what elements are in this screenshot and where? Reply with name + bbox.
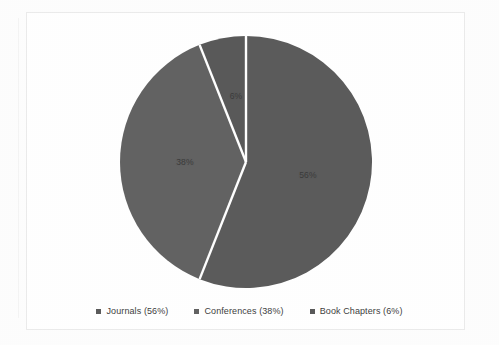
pie-chart-plot-area: 56% 38% 6%	[0, 0, 499, 300]
legend-item-label: Book Chapters (6%)	[320, 306, 403, 316]
legend-item-book-chapters[interactable]: Book Chapters (6%)	[310, 306, 403, 316]
slice-label-book-chapters: 6%	[230, 91, 243, 101]
chart-legend: Journals (56%) Conferences (38%) Book Ch…	[0, 306, 499, 316]
legend-item-journals[interactable]: Journals (56%)	[96, 306, 168, 316]
slice-label-conferences: 38%	[176, 157, 194, 167]
legend-item-label: Journals (56%)	[106, 306, 168, 316]
legend-swatch-icon	[310, 309, 315, 314]
slice-label-journals: 56%	[299, 170, 317, 180]
pie-chart-svg	[0, 0, 499, 300]
legend-swatch-icon	[96, 309, 101, 314]
legend-item-label: Conferences (38%)	[204, 306, 283, 316]
legend-swatch-icon	[194, 309, 199, 314]
legend-item-conferences[interactable]: Conferences (38%)	[194, 306, 283, 316]
